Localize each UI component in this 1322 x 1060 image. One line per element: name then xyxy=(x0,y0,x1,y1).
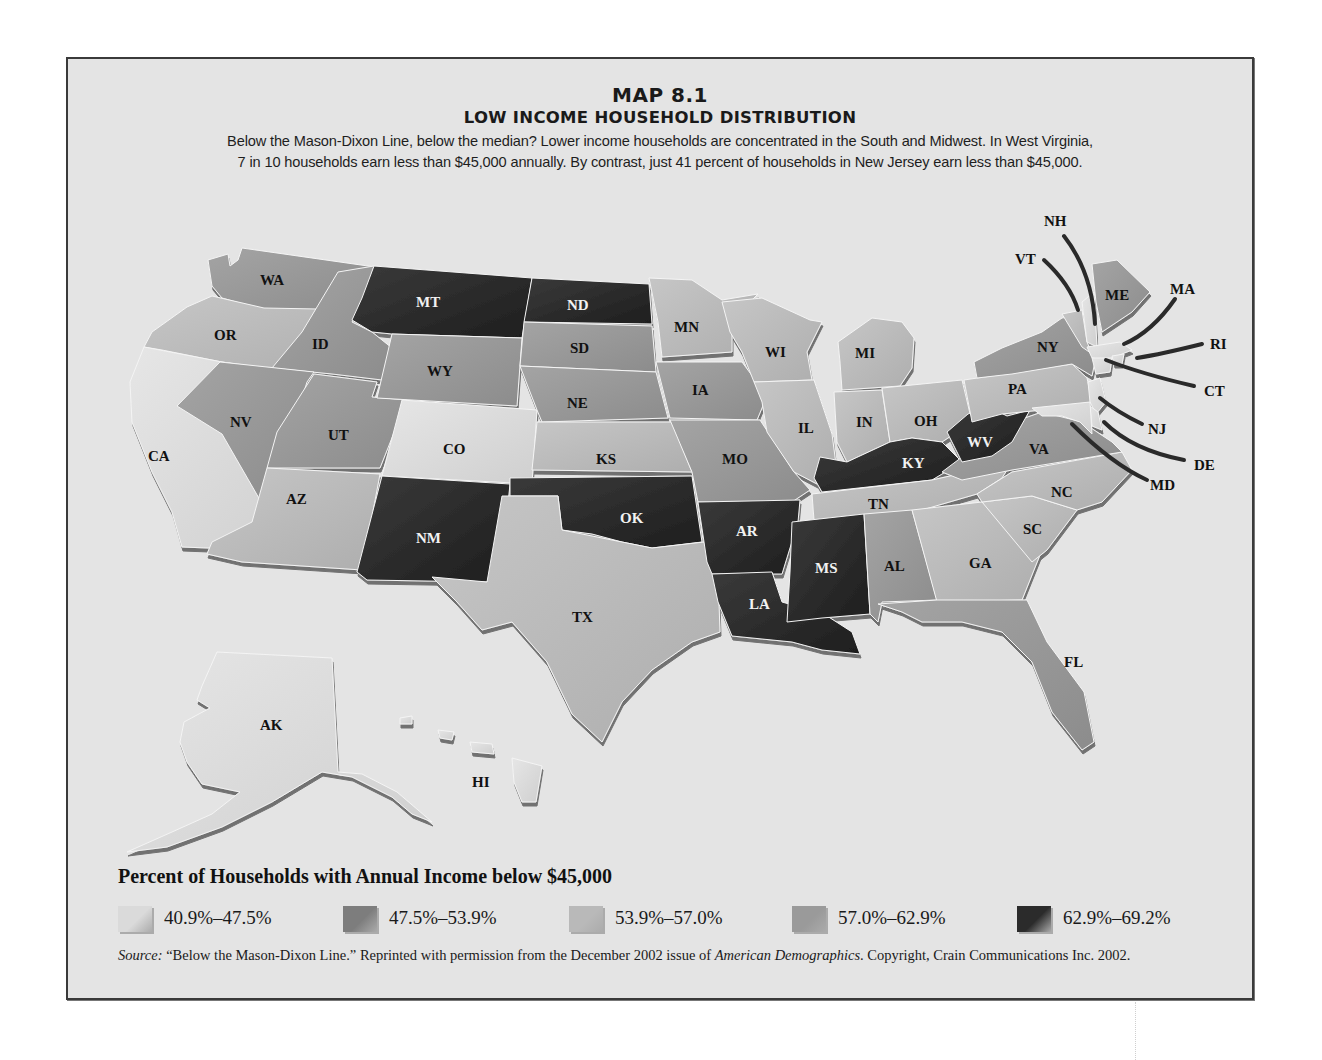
label-MA: MA xyxy=(1170,281,1195,297)
label-NH: NH xyxy=(1044,213,1067,229)
label-ME: ME xyxy=(1105,287,1129,303)
label-OH: OH xyxy=(914,413,938,429)
label-DE: DE xyxy=(1194,457,1215,473)
label-SC: SC xyxy=(1023,521,1042,537)
label-ND: ND xyxy=(567,297,589,313)
label-NC: NC xyxy=(1051,484,1073,500)
label-RI: RI xyxy=(1210,336,1227,352)
callout-line-CT xyxy=(1106,360,1194,386)
label-MN: MN xyxy=(674,319,699,335)
label-NY: NY xyxy=(1037,339,1059,355)
source-citation: Source: “Below the Mason-Dixon Line.” Re… xyxy=(118,945,1198,966)
label-AK: AK xyxy=(260,717,283,733)
legend-label-c3: 53.9%–57.0% xyxy=(615,907,723,929)
label-LA: LA xyxy=(749,596,770,612)
label-NV: NV xyxy=(230,414,252,430)
label-CT: CT xyxy=(1204,383,1225,399)
state-NM[interactable] xyxy=(357,476,510,582)
source-text-1: “Below the Mason-Dixon Line.” Reprinted … xyxy=(163,947,715,963)
label-TX: TX xyxy=(572,609,593,625)
legend-swatch-c2 xyxy=(343,906,377,932)
source-prefix: Source: xyxy=(118,947,163,963)
legend-swatch-c1 xyxy=(118,906,152,932)
us-choropleth-map: WA OR CA ID NV UT AZ MT WY CO NM ND SD N… xyxy=(68,59,1256,859)
callout-line-RI xyxy=(1137,344,1202,358)
label-AL: AL xyxy=(884,558,905,574)
state-AK[interactable] xyxy=(127,652,432,852)
label-OK: OK xyxy=(620,510,644,526)
label-FL: FL xyxy=(1064,654,1083,670)
label-CA: CA xyxy=(148,448,170,464)
label-MO: MO xyxy=(722,451,748,467)
legend-swatch-c3 xyxy=(569,906,603,932)
label-GA: GA xyxy=(969,555,992,571)
map-figure-frame: MAP 8.1 LOW INCOME HOUSEHOLD DISTRIBUTIO… xyxy=(66,57,1254,1000)
state-shapes xyxy=(127,248,1150,852)
legend-swatch-c5 xyxy=(1017,906,1051,932)
label-WV: WV xyxy=(967,434,993,450)
label-VT: VT xyxy=(1015,251,1036,267)
label-WI: WI xyxy=(765,344,786,360)
source-publication: American Demographics xyxy=(715,947,860,963)
label-KS: KS xyxy=(596,451,616,467)
legend-label-c2: 47.5%–53.9% xyxy=(389,907,497,929)
label-IN: IN xyxy=(856,414,873,430)
label-OR: OR xyxy=(214,327,237,343)
label-WA: WA xyxy=(260,272,284,288)
legend-label-c4: 57.0%–62.9% xyxy=(838,907,946,929)
label-ID: ID xyxy=(312,336,329,352)
label-IA: IA xyxy=(692,382,709,398)
source-text-2: . Copyright, Crain Communications Inc. 2… xyxy=(860,947,1130,963)
label-AR: AR xyxy=(736,523,758,539)
callout-line-NJ xyxy=(1100,398,1142,424)
state-HI[interactable] xyxy=(400,716,542,802)
label-MI: MI xyxy=(855,345,875,361)
label-MS: MS xyxy=(815,560,838,576)
label-HI: HI xyxy=(472,774,490,790)
label-KY: KY xyxy=(902,455,925,471)
label-NJ: NJ xyxy=(1148,421,1167,437)
label-SD: SD xyxy=(570,340,589,356)
state-MI[interactable] xyxy=(838,318,914,390)
label-PA: PA xyxy=(1008,381,1027,397)
legend: 40.9%–47.5% 47.5%–53.9% 53.9%–57.0% 57.0… xyxy=(118,903,1238,937)
state-MT[interactable] xyxy=(352,266,532,338)
label-MD: MD xyxy=(1150,477,1175,493)
label-VA: VA xyxy=(1029,441,1049,457)
label-MT: MT xyxy=(416,294,440,310)
state-NE[interactable] xyxy=(520,366,668,422)
label-UT: UT xyxy=(328,427,349,443)
callout-line-VT xyxy=(1044,260,1078,310)
page-guide-dotted-line xyxy=(1135,1002,1136,1060)
label-WY: WY xyxy=(427,363,453,379)
legend-title: Percent of Households with Annual Income… xyxy=(118,865,612,888)
label-NE: NE xyxy=(567,395,588,411)
label-AZ: AZ xyxy=(286,491,307,507)
label-TN: TN xyxy=(868,496,889,512)
state-FL[interactable] xyxy=(878,600,1094,750)
legend-swatch-c4 xyxy=(792,906,826,932)
legend-label-c5: 62.9%–69.2% xyxy=(1063,907,1171,929)
label-NM: NM xyxy=(416,530,441,546)
label-IL: IL xyxy=(798,420,814,436)
legend-label-c1: 40.9%–47.5% xyxy=(164,907,272,929)
label-CO: CO xyxy=(443,441,466,457)
